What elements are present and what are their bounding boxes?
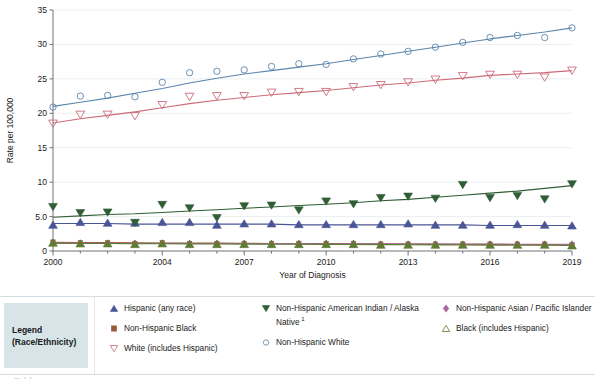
svg-text:2013: 2013 bbox=[399, 257, 418, 267]
triangle-down-filled-icon bbox=[261, 303, 271, 313]
svg-text:Rate per 100,000: Rate per 100,000 bbox=[5, 97, 15, 163]
legend-item-label: Non-Hispanic Black bbox=[124, 323, 196, 334]
diamond-filled-icon bbox=[441, 303, 451, 313]
svg-text:2000: 2000 bbox=[44, 257, 63, 267]
svg-text:25: 25 bbox=[38, 74, 48, 84]
legend-item[interactable]: White (includes Hispanic) bbox=[109, 343, 261, 354]
circle-open-icon bbox=[261, 337, 271, 347]
legend-column-2: Non-Hispanic American Indian / Alaska Na… bbox=[261, 303, 441, 370]
legend-footnote-marker: 1 bbox=[300, 316, 305, 322]
square-filled-icon bbox=[109, 323, 119, 333]
legend-title-line2: (Race/Ethnicity) bbox=[12, 336, 76, 348]
svg-text:0: 0 bbox=[42, 246, 47, 256]
legend-item-label: Non-Hispanic American Indian / Alaska Na… bbox=[276, 303, 441, 328]
bottom-strip: Table bbox=[0, 376, 595, 389]
legend-column-3: Non-Hispanic Asian / Pacific IslanderBla… bbox=[441, 303, 595, 370]
legend-item-label: Non-Hispanic Asian / Pacific Islander bbox=[456, 303, 592, 314]
line-chart: 05.0101520253035200020042007201020132016… bbox=[0, 0, 595, 292]
legend-item[interactable]: Non-Hispanic American Indian / Alaska Na… bbox=[261, 303, 441, 328]
bottom-partial-text: Table bbox=[14, 376, 37, 386]
svg-text:35: 35 bbox=[38, 5, 48, 15]
legend-item[interactable]: Non-Hispanic White bbox=[261, 337, 441, 348]
triangle-down-open-icon bbox=[109, 343, 119, 353]
triangle-up-open-icon bbox=[441, 323, 451, 333]
svg-text:2016: 2016 bbox=[481, 257, 500, 267]
legend-item-label: Black (includes Hispanic) bbox=[456, 323, 549, 334]
legend: Legend (Race/Ethnicity) Hispanic (any ra… bbox=[0, 296, 595, 375]
svg-text:15: 15 bbox=[38, 143, 48, 153]
legend-column-1: Hispanic (any race)Non-Hispanic BlackWhi… bbox=[109, 303, 261, 370]
legend-columns: Hispanic (any race)Non-Hispanic BlackWhi… bbox=[94, 297, 595, 374]
legend-item-label: Hispanic (any race) bbox=[124, 303, 195, 314]
svg-text:2010: 2010 bbox=[317, 257, 336, 267]
svg-text:5.0: 5.0 bbox=[35, 212, 47, 222]
svg-text:2007: 2007 bbox=[235, 257, 254, 267]
svg-text:10: 10 bbox=[38, 177, 48, 187]
triangle-up-filled-icon bbox=[109, 303, 119, 313]
legend-title-box: Legend (Race/Ethnicity) bbox=[4, 303, 88, 368]
legend-item-label: White (includes Hispanic) bbox=[124, 343, 218, 354]
svg-text:Year of Diagnosis: Year of Diagnosis bbox=[279, 270, 345, 280]
legend-item[interactable]: Hispanic (any race) bbox=[109, 303, 261, 314]
svg-text:20: 20 bbox=[38, 108, 48, 118]
svg-text:2019: 2019 bbox=[563, 257, 582, 267]
chart-area: 05.0101520253035200020042007201020132016… bbox=[0, 0, 595, 292]
legend-item-label: Non-Hispanic White bbox=[276, 337, 349, 348]
legend-item[interactable]: Non-Hispanic Asian / Pacific Islander bbox=[441, 303, 595, 314]
legend-title-line1: Legend bbox=[12, 324, 76, 336]
legend-item[interactable]: Non-Hispanic Black bbox=[109, 323, 261, 334]
svg-text:30: 30 bbox=[38, 39, 48, 49]
chart-page: 05.0101520253035200020042007201020132016… bbox=[0, 0, 595, 389]
svg-text:2004: 2004 bbox=[153, 257, 172, 267]
legend-item[interactable]: Black (includes Hispanic) bbox=[441, 323, 595, 334]
